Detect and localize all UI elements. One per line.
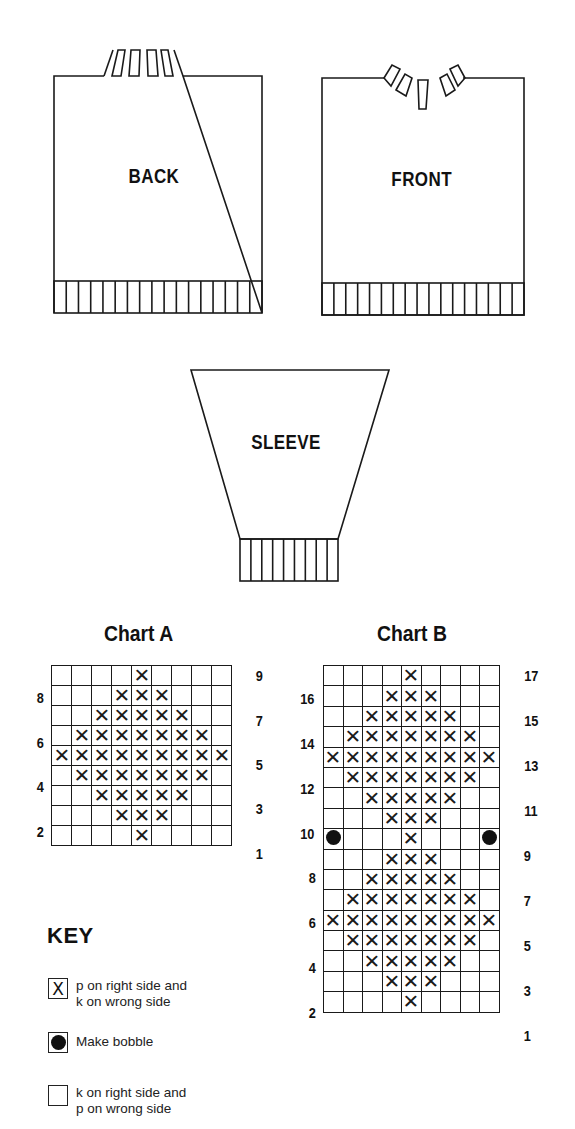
knit-cell: [92, 826, 112, 846]
purl-cell: ✕: [382, 931, 402, 951]
purl-cross-icon: ✕: [383, 931, 400, 950]
chart-row: ✕: [324, 829, 500, 849]
knit-cell: [112, 666, 132, 686]
purl-cross-icon: ✕: [93, 746, 110, 765]
purl-cross-icon: ✕: [403, 829, 420, 848]
purl-cell: ✕: [402, 869, 422, 889]
purl-cross-icon: ✕: [113, 706, 130, 725]
knit-cell: [192, 706, 212, 726]
purl-cell: ✕: [382, 971, 402, 991]
knit-cell: [343, 992, 363, 1012]
chart-row: ✕: [52, 666, 232, 686]
purl-cross-icon: ✕: [403, 768, 420, 787]
purl-cross-icon: ✕: [422, 972, 439, 991]
purl-cross-icon: ✕: [325, 748, 342, 767]
purl-cross-icon: ✕: [422, 850, 439, 869]
row-number-label: 1: [524, 1027, 531, 1044]
purl-cross-icon: ✕: [364, 931, 381, 950]
knit-cell: [480, 951, 500, 971]
knit-cell: [52, 766, 72, 786]
knit-cell: [441, 686, 461, 706]
knit-cell: [172, 666, 192, 686]
purl-cross-icon: ✕: [422, 727, 439, 746]
knit-cell: [152, 826, 172, 846]
chart-row: ✕: [52, 826, 232, 846]
purl-cross-icon: ✕: [422, 890, 439, 909]
purl-cell: ✕: [402, 767, 422, 787]
knit-cell: [72, 806, 92, 826]
purl-cross-icon: ✕: [364, 707, 381, 726]
purl-cross-icon: ✕: [403, 992, 420, 1011]
purl-cross-icon: ✕: [422, 911, 439, 930]
purl-cell: ✕: [112, 686, 132, 706]
purl-cross-icon: ✕: [442, 768, 459, 787]
purl-cross-icon: ✕: [113, 746, 130, 765]
knit-cell: [343, 706, 363, 726]
purl-cross-icon: ✕: [73, 726, 90, 745]
purl-cross-icon: ✕: [481, 911, 498, 930]
knit-cell: [52, 686, 72, 706]
chart-row: ✕✕✕: [324, 849, 500, 869]
purl-cross-icon: ✕: [442, 748, 459, 767]
knit-cell: [112, 826, 132, 846]
purl-cell: ✕: [460, 910, 480, 930]
chart-row: ✕✕✕✕✕: [324, 869, 500, 889]
purl-cross-icon: ✕: [193, 746, 210, 765]
knit-cell: [212, 806, 232, 826]
chart-row: ✕✕✕✕✕✕✕: [324, 890, 500, 910]
purl-cross-icon: ✕: [403, 890, 420, 909]
chart-b-grid: ✕✕✕✕✕✕✕✕✕✕✕✕✕✕✕✕✕✕✕✕✕✕✕✕✕✕✕✕✕✕✕✕✕✕✕✕✕✕✕✕…: [323, 665, 500, 1013]
knit-cell: [52, 786, 72, 806]
knit-cell: [72, 786, 92, 806]
knit-cell: [324, 971, 344, 991]
knit-cell: [441, 666, 461, 686]
purl-cell: ✕: [382, 890, 402, 910]
purl-cross-icon: ✕: [364, 727, 381, 746]
purl-cell: ✕: [172, 746, 192, 766]
purl-cross-icon: ✕: [153, 686, 170, 705]
chart-row: ✕✕✕✕✕✕✕: [324, 931, 500, 951]
purl-cell: ✕: [363, 931, 383, 951]
purl-cell: ✕: [421, 951, 441, 971]
purl-cross-icon: ✕: [213, 746, 230, 765]
knit-cell: [92, 666, 112, 686]
purl-cell: ✕: [382, 727, 402, 747]
knit-cell: [324, 931, 344, 951]
chart-row: ✕✕✕✕✕✕✕✕✕: [324, 747, 500, 767]
purl-cell: ✕: [152, 766, 172, 786]
purl-cell: ✕: [92, 746, 112, 766]
knit-cell: [324, 666, 344, 686]
purl-cross-icon: ✕: [193, 726, 210, 745]
chart-row: ✕✕✕✕✕: [324, 788, 500, 808]
knit-cell: [460, 788, 480, 808]
purl-cross-icon: ✕: [364, 789, 381, 808]
knit-cell: [72, 706, 92, 726]
key-item-bobble-line1: Make bobble: [76, 1034, 153, 1050]
knit-cell: [72, 686, 92, 706]
purl-cell: ✕: [192, 726, 212, 746]
knit-cell: [480, 992, 500, 1012]
purl-cell: ✕: [172, 766, 192, 786]
knit-cell: [382, 992, 402, 1012]
back-neck-ribbing: [104, 50, 183, 76]
purl-cell: ✕: [460, 890, 480, 910]
knit-cell: [52, 726, 72, 746]
purl-cross-icon: ✕: [113, 766, 130, 785]
purl-cross-icon: ✕: [325, 911, 342, 930]
purl-cell: ✕: [152, 786, 172, 806]
knit-cell: [460, 849, 480, 869]
purl-cell: ✕: [460, 747, 480, 767]
purl-cross-icon: ✕: [422, 687, 439, 706]
purl-cell: ✕: [402, 951, 422, 971]
purl-cross-icon: ✕: [403, 870, 420, 889]
purl-cross-icon: ✕: [133, 786, 150, 805]
purl-cell: ✕: [363, 747, 383, 767]
purl-cell: ✕: [402, 971, 422, 991]
purl-cross-icon: ✕: [403, 789, 420, 808]
purl-cross-icon: ✕: [133, 706, 150, 725]
purl-cross-icon: ✕: [113, 786, 130, 805]
row-number-label: 17: [524, 667, 538, 684]
purl-cross-icon: ✕: [422, 768, 439, 787]
purl-cell: ✕: [112, 706, 132, 726]
row-number-label: 7: [524, 892, 531, 909]
